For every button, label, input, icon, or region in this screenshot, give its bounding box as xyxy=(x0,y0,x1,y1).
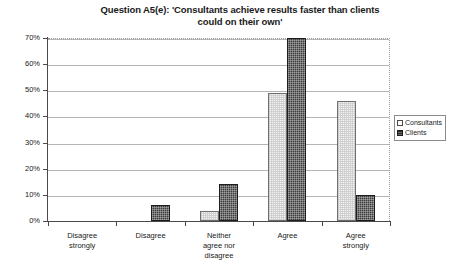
x-axis-label-line: Agree xyxy=(277,231,297,240)
chart-legend: ConsultantsClients xyxy=(394,115,446,141)
y-axis-tick-mark xyxy=(43,195,48,196)
x-axis-label-line: strongly xyxy=(343,241,369,250)
x-axis-tick-mark xyxy=(253,221,254,226)
x-axis-tick-mark xyxy=(116,221,117,226)
y-axis-tick-label: 50% xyxy=(6,86,40,94)
x-axis-label-line: Agree xyxy=(346,231,366,240)
legend-item-clients: Clients xyxy=(397,128,442,137)
y-axis-tick-label: 30% xyxy=(6,139,40,147)
x-axis-tick-mark xyxy=(322,221,323,226)
x-axis-category-label: Agreestrongly xyxy=(313,231,399,251)
y-axis-tick-label: 70% xyxy=(6,34,40,42)
x-axis-label-line: disagree xyxy=(205,251,234,260)
legend-item-consultants: Consultants xyxy=(397,119,442,128)
y-axis-tick-label: 60% xyxy=(6,60,40,68)
chart-container: Question A5(e): 'Consultants achieve res… xyxy=(0,0,470,270)
x-axis-label-line: agree nor xyxy=(203,241,235,250)
x-axis-label-line: Disagree xyxy=(136,231,166,240)
legend-label: Consultants xyxy=(405,119,442,127)
y-axis-tick-label: 10% xyxy=(6,191,40,199)
y-axis-tick-label: 40% xyxy=(6,112,40,120)
legend-label: Clients xyxy=(405,129,426,137)
y-axis-tick-mark xyxy=(43,38,48,39)
y-axis-tick-label: 0% xyxy=(6,217,40,225)
y-axis-tick-mark xyxy=(43,169,48,170)
x-axis-label-line: Neither xyxy=(207,231,231,240)
y-axis-tick-mark xyxy=(43,90,48,91)
y-axis-tick-mark xyxy=(43,116,48,117)
y-axis-tick-mark xyxy=(43,143,48,144)
y-axis-tick-mark xyxy=(43,64,48,65)
x-axis-tick-mark xyxy=(185,221,186,226)
x-axis-tick-mark xyxy=(390,221,391,226)
x-axis-label-line: Disagree xyxy=(67,231,97,240)
x-axis-label-line: strongly xyxy=(69,241,95,250)
legend-swatch-clients-icon xyxy=(397,130,403,136)
x-axis-tick-mark xyxy=(48,221,49,226)
y-axis-tick-label: 20% xyxy=(6,165,40,173)
legend-swatch-consultants-icon xyxy=(397,120,403,126)
